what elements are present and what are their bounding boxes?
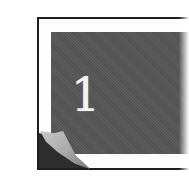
right-edge-fade [179, 0, 189, 181]
chapter-number: 1 [71, 72, 100, 118]
